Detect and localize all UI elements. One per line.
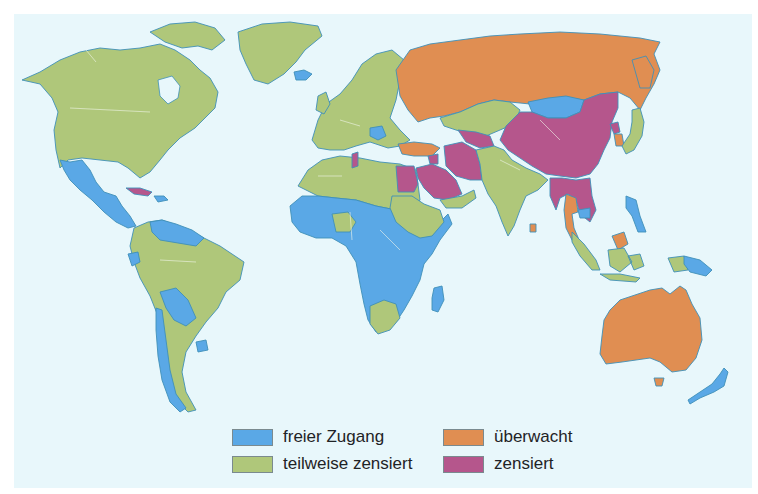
region-turkey bbox=[398, 142, 440, 156]
legend-item-free-access: freier Zugang bbox=[232, 428, 384, 446]
region-madagascar bbox=[432, 286, 444, 312]
region-sri-lanka bbox=[530, 224, 536, 232]
region-tunisia bbox=[352, 152, 358, 168]
region-south-africa bbox=[370, 300, 400, 334]
legend-label-monitored: überwacht bbox=[494, 427, 572, 447]
region-new-zealand bbox=[688, 368, 728, 404]
region-north-america bbox=[22, 44, 218, 178]
region-indonesia bbox=[572, 232, 688, 282]
map-legend: freier Zugang teilweise zensiert überwac… bbox=[232, 428, 572, 474]
region-syria bbox=[428, 154, 438, 164]
region-cambodia bbox=[578, 208, 590, 218]
region-mexico-central-america bbox=[60, 160, 136, 228]
legend-swatch-partly-censored bbox=[232, 456, 273, 473]
legend-swatch-censored bbox=[443, 456, 484, 473]
world-map bbox=[0, 0, 758, 494]
region-caribbean bbox=[154, 196, 168, 202]
region-japan bbox=[622, 108, 644, 154]
region-papua-new-guinea bbox=[684, 256, 712, 276]
region-uruguay bbox=[196, 340, 208, 352]
region-tasmania bbox=[654, 378, 664, 386]
legend-swatch-monitored bbox=[443, 429, 484, 446]
region-south-korea bbox=[614, 134, 624, 146]
region-iceland bbox=[294, 70, 312, 80]
legend-label-partly-censored: teilweise zensiert bbox=[283, 454, 412, 474]
region-philippines bbox=[626, 196, 646, 232]
region-malaysia bbox=[612, 232, 628, 250]
region-north-korea bbox=[610, 122, 620, 134]
legend-item-partly-censored: teilweise zensiert bbox=[232, 455, 412, 473]
legend-label-censored: zensiert bbox=[494, 454, 554, 474]
region-cuba bbox=[126, 188, 152, 196]
legend-item-censored: zensiert bbox=[443, 455, 554, 473]
region-russia bbox=[396, 32, 660, 122]
region-australia bbox=[600, 286, 702, 372]
legend-label-free-access: freier Zugang bbox=[283, 427, 384, 447]
legend-item-monitored: überwacht bbox=[443, 428, 572, 446]
legend-swatch-free-access bbox=[232, 429, 273, 446]
region-egypt bbox=[396, 166, 418, 192]
